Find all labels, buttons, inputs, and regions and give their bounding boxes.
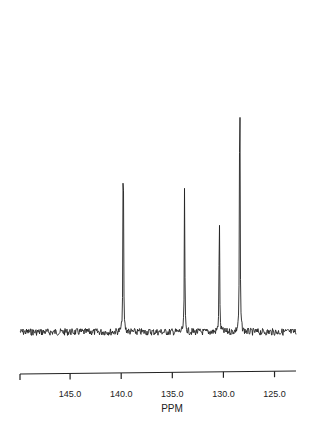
x-axis-ticks: 145.0140.0135.0130.0125.0 (59, 371, 286, 399)
x-tick-label: 130.0 (212, 389, 235, 399)
nmr-spectrum-chart: 145.0140.0135.0130.0125.0 PPM (0, 0, 309, 426)
x-tick-label: 145.0 (59, 389, 82, 399)
x-axis-title: PPM (161, 403, 183, 414)
x-tick-label: 125.0 (263, 389, 286, 399)
x-tick-label: 135.0 (161, 389, 184, 399)
x-axis-line (20, 371, 296, 374)
spectrum-trace (20, 117, 296, 335)
x-tick-label: 140.0 (110, 389, 133, 399)
